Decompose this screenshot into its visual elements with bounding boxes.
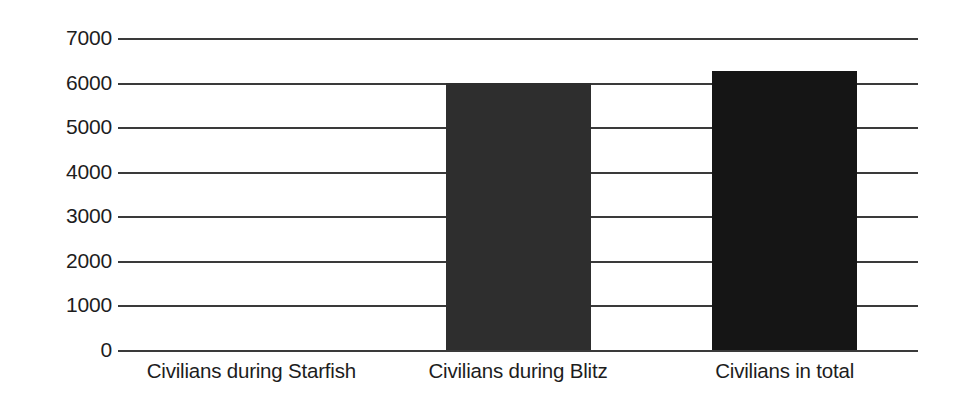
y-axis-tick-label: 2000 xyxy=(40,250,112,271)
y-axis-tick-label: 5000 xyxy=(40,116,112,137)
y-axis-tick-label: 4000 xyxy=(40,161,112,182)
x-axis-labels: Civilians during StarfishCivilians durin… xyxy=(118,358,918,388)
gridline xyxy=(118,350,918,352)
bars-layer xyxy=(118,38,918,350)
x-axis-category-label: Civilians in total xyxy=(651,358,918,384)
bar-chart-figure: 70006000500040003000200010000 Civilians … xyxy=(0,0,968,410)
y-axis-tick-label: 0 xyxy=(40,339,112,360)
y-axis-tick-label: 3000 xyxy=(40,205,112,226)
bar xyxy=(446,83,591,350)
x-axis-category-label: Civilians during Starfish xyxy=(118,358,385,384)
x-axis-category-label: Civilians during Blitz xyxy=(385,358,652,384)
y-axis-tick-label: 6000 xyxy=(40,72,112,93)
bar xyxy=(712,71,857,350)
y-axis-tick-label: 7000 xyxy=(40,27,112,48)
y-axis-tick-label: 1000 xyxy=(40,294,112,315)
